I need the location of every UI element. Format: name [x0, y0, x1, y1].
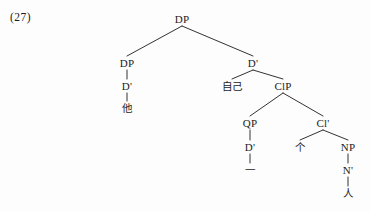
tree-terminal-ge: 个: [295, 142, 305, 153]
tree-branch: [232, 70, 253, 79]
tree-node-clp: ClP: [274, 81, 291, 92]
tree-node-np: NP: [341, 142, 355, 153]
tree-node-d_bar_qp: D': [245, 142, 255, 153]
tree-node-dp_root: DP: [175, 14, 189, 25]
tree-branch: [250, 93, 283, 116]
tree-branch: [300, 130, 323, 140]
tree-terminal-yi: 一: [245, 165, 255, 176]
syntax-tree-figure: (27) DPDPD'他D'自己ClPQPD'一Cl'个NPN'人: [0, 0, 370, 212]
tree-branch-lines: [0, 0, 370, 212]
tree-node-qp: QP: [243, 118, 257, 129]
tree-branch: [127, 26, 182, 56]
tree-terminal-ren: 人: [343, 188, 353, 199]
tree-terminal-ziji: 自己: [222, 81, 242, 92]
tree-node-d_bar_left: D': [122, 81, 132, 92]
tree-branch: [283, 93, 323, 116]
tree-node-dp_left: DP: [120, 58, 134, 69]
tree-branch: [323, 130, 348, 140]
tree-node-n_bar: N': [343, 165, 353, 176]
tree-node-d_bar_rt: D': [248, 58, 258, 69]
tree-terminal-ta: 他: [122, 103, 132, 114]
tree-branch: [182, 26, 253, 56]
tree-branch: [253, 70, 283, 79]
tree-node-cl_bar: Cl': [317, 118, 330, 129]
